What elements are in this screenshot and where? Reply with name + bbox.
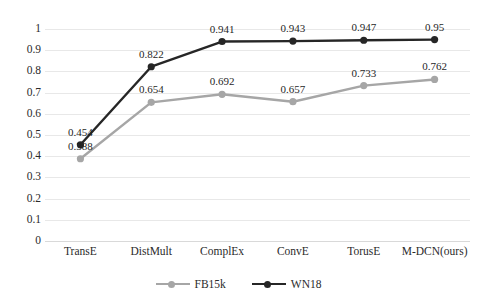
legend-item-wn18[interactable]: WN18 xyxy=(252,278,322,290)
data-point xyxy=(360,82,367,89)
legend-label: FB15k xyxy=(195,278,226,290)
data-point-label: 0.95 xyxy=(425,22,444,33)
x-axis-tick-label: TorusE xyxy=(347,245,380,258)
x-axis-tick-label: ConvE xyxy=(277,245,309,258)
line-chart: 10.90.80.70.60.50.40.30.20.10 0.3880.654… xyxy=(0,0,477,307)
x-axis-tick-label: DistMult xyxy=(130,245,172,258)
data-point xyxy=(289,98,296,105)
data-point-label: 0.941 xyxy=(210,24,235,35)
x-axis: TransEDistMultComplExConvETorusEM-DCN(ou… xyxy=(45,245,470,265)
data-point xyxy=(218,91,225,98)
data-point xyxy=(218,38,225,45)
data-point-label: 0.947 xyxy=(351,22,376,33)
data-point xyxy=(77,155,84,162)
data-point xyxy=(148,63,155,70)
legend-swatch-icon xyxy=(156,279,190,289)
data-point xyxy=(148,99,155,106)
data-point-label: 0.733 xyxy=(351,68,376,79)
data-point xyxy=(431,36,438,43)
legend: FB15kWN18 xyxy=(0,278,477,290)
data-point xyxy=(360,37,367,44)
x-axis-tick-label: M-DCN(ours) xyxy=(402,245,468,258)
data-point-label: 0.657 xyxy=(281,84,306,95)
x-axis-tick-label: TransE xyxy=(64,245,97,258)
data-point-label: 0.388 xyxy=(68,141,93,152)
data-point-label: 0.692 xyxy=(210,76,235,87)
data-point-label: 0.762 xyxy=(422,61,447,72)
series-line xyxy=(80,40,434,145)
series-line xyxy=(80,79,434,158)
legend-label: WN18 xyxy=(291,278,322,290)
x-axis-tick-label: ComplEx xyxy=(200,245,244,258)
legend-swatch-icon xyxy=(252,279,286,289)
series-wn18 xyxy=(77,36,438,148)
data-point-label: 0.654 xyxy=(139,84,164,95)
legend-item-fb15k[interactable]: FB15k xyxy=(156,278,226,290)
data-point-label: 0.943 xyxy=(281,23,306,34)
data-point xyxy=(431,76,438,83)
data-point-label: 0.822 xyxy=(139,49,164,60)
data-point xyxy=(289,37,296,44)
data-point-label: 0.454 xyxy=(68,127,93,138)
